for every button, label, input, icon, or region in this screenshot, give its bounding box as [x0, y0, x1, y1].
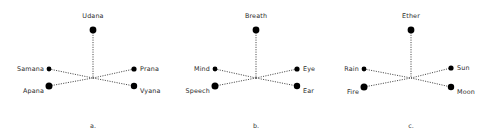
- node-label-upper-right: Prana: [140, 65, 159, 73]
- diagram-b-graphic: [163, 0, 326, 140]
- node-label-lower-right: Moon: [457, 88, 475, 96]
- node-dot-upper-right: [131, 66, 136, 71]
- node-label-lower-left: Fire: [347, 88, 359, 96]
- node-label-top: Udana: [82, 12, 103, 20]
- node-dot-lower-left: [212, 83, 219, 90]
- node-label-lower-right: Vyana: [140, 87, 161, 95]
- node-dot-top: [408, 27, 415, 34]
- diagram-c: Ether Rain Fire Sun Moon c.: [327, 0, 490, 140]
- spoke-upper-right: [411, 68, 451, 78]
- spoke-lower-right: [93, 78, 134, 86]
- node-label-top: Breath: [245, 12, 267, 20]
- node-dot-lower-right: [131, 83, 137, 89]
- node-dot-top: [90, 27, 97, 34]
- node-label-lower-right: Ear: [303, 87, 314, 95]
- node-dot-upper-left: [362, 67, 367, 72]
- spoke-lower-right: [256, 78, 297, 86]
- node-label-top: Ether: [402, 12, 420, 20]
- node-label-upper-left: Mind: [194, 65, 210, 73]
- node-dot-upper-right: [448, 65, 453, 70]
- diagram-caption-a: a.: [90, 122, 96, 130]
- node-dot-upper-left: [47, 67, 52, 72]
- node-dot-upper-right: [294, 66, 299, 71]
- spoke-lower-left: [215, 78, 256, 86]
- node-label-lower-left: Speech: [186, 87, 210, 95]
- spoke-upper-right: [93, 69, 134, 78]
- diagram-a: Udana Samana Apana Prana Vyana a.: [0, 0, 163, 140]
- diagram-b: Breath Mind Speech Eye Ear b.: [163, 0, 326, 140]
- node-dot-lower-left: [361, 84, 368, 91]
- spoke-upper-left: [215, 69, 256, 78]
- node-label-upper-right: Sun: [457, 64, 470, 72]
- node-label-upper-right: Eye: [303, 65, 315, 73]
- spoke-upper-left: [364, 69, 411, 78]
- spoke-upper-right: [256, 69, 297, 78]
- node-dot-top: [253, 27, 260, 34]
- spoke-upper-left: [49, 69, 93, 78]
- spoke-lower-left: [364, 78, 411, 87]
- spoke-lower-left: [49, 78, 93, 86]
- node-dot-lower-right: [294, 83, 300, 89]
- node-dot-lower-left: [46, 83, 53, 90]
- node-dot-lower-right: [448, 84, 454, 90]
- diagram-caption-c: c.: [408, 122, 414, 130]
- figure-root: Udana Samana Apana Prana Vyana a. Brea: [0, 0, 490, 140]
- diagram-caption-b: b.: [253, 122, 259, 130]
- node-label-upper-left: Samana: [17, 65, 44, 73]
- node-dot-upper-left: [213, 67, 218, 72]
- node-label-upper-left: Rain: [344, 65, 359, 73]
- spoke-lower-right: [411, 78, 451, 87]
- node-label-lower-left: Apana: [23, 87, 44, 95]
